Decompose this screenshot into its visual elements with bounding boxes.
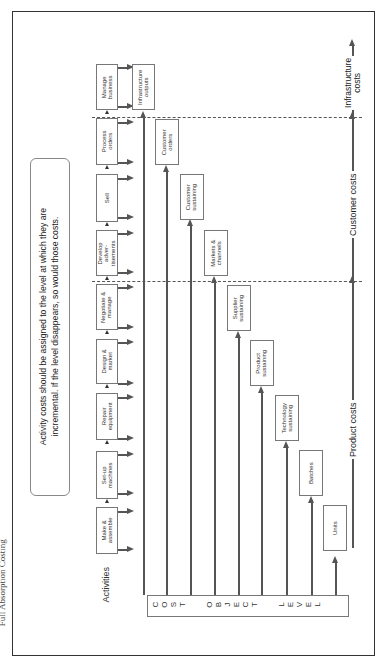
arrow-up-icon — [105, 165, 109, 169]
activity-sell: Sell — [96, 174, 118, 222]
arrow-up-icon — [105, 276, 109, 280]
arrow-up-icon — [349, 276, 355, 283]
arrow-up-icon — [235, 331, 241, 338]
arrow-right-icon — [127, 394, 134, 400]
level-markets-channels: Markets & channels — [204, 230, 228, 276]
product-costs-label: Product costs — [343, 380, 363, 480]
arrow-right-icon — [127, 119, 134, 125]
level-product-sustaining: Product sustaining — [250, 340, 274, 386]
activity-design-market: Design & market — [96, 339, 118, 384]
arrow-up-icon — [258, 386, 264, 393]
level-technology-sustaining: Technology sustaining — [275, 395, 299, 441]
arrow-up-icon — [105, 384, 109, 388]
arrow-up-icon — [308, 496, 314, 503]
arrow-right-icon — [127, 546, 134, 552]
arrow-right-icon — [127, 214, 134, 220]
note-box: Activity costs should be assigned to the… — [30, 158, 70, 496]
divider-customer — [92, 281, 362, 282]
arrow-right-icon — [127, 508, 134, 514]
activity-process-orders: Process orders — [96, 118, 118, 165]
page-header: Full Absorption Costing — [0, 500, 10, 665]
arrow-right-icon — [127, 380, 134, 386]
activity-make-assemble: Make & assemble — [96, 507, 118, 554]
arrow-right-icon — [127, 435, 134, 441]
level-batches: Batches — [299, 450, 323, 496]
arrow-up-icon — [105, 440, 109, 444]
activity-negotiate-manage: Negotiate & manage — [96, 284, 118, 330]
arrow-up-icon — [211, 276, 217, 283]
level-units: Units — [323, 505, 347, 551]
arrow-right-icon — [127, 324, 134, 330]
activity-setup-machines: Set-up machines — [96, 451, 118, 499]
arrow-right-icon — [127, 175, 134, 181]
arrow-up-icon — [163, 165, 169, 172]
level-infrastructure-outputs: Infrastructure outputs — [132, 64, 155, 110]
divider-infrastructure — [92, 117, 362, 118]
arrow-up-icon — [105, 499, 109, 503]
customer-costs-label: Customer costs — [343, 150, 363, 260]
arrow-up-icon — [105, 330, 109, 334]
arrow-up-icon — [105, 110, 109, 114]
arrow-up-icon — [187, 219, 193, 226]
arrow-up-icon — [349, 39, 355, 46]
arrow-right-icon — [127, 269, 134, 275]
cost-object-level-label: COSTOBJECTLEVEL — [151, 600, 322, 609]
arrow-right-icon — [127, 284, 134, 290]
level-customer-sustaining: Customer sustaining — [180, 174, 204, 220]
activity-repair-equipment: Repair equipment — [96, 393, 118, 440]
level-supplier-sustaining: Supplier sustaining — [227, 285, 251, 331]
activity-manage-business: Manage business — [96, 64, 118, 110]
arrow-right-icon — [127, 159, 134, 165]
arrow-right-icon — [127, 230, 134, 236]
arrow-right-icon — [127, 490, 134, 496]
infrastructure-costs-label: Infrastructure costs — [337, 48, 369, 118]
arrow-up-icon — [105, 222, 109, 226]
activity-develop-advertisements: Develop adver- tisements — [96, 230, 118, 276]
level-customer-orders: Customer orders — [155, 119, 179, 165]
arrow-up-icon — [332, 556, 338, 563]
arrow-up-icon — [140, 111, 146, 118]
arrow-right-icon — [127, 451, 134, 457]
activities-label: Activities — [96, 560, 118, 610]
arrow-right-icon — [127, 339, 134, 345]
arrow-up-icon — [283, 441, 289, 448]
